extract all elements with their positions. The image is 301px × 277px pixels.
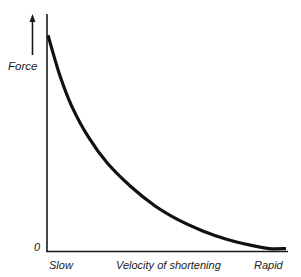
- x-axis-title: Velocity of shortening: [116, 259, 221, 271]
- y-zero-tick-label: 0: [34, 241, 40, 253]
- x-axis-right-label: Rapid: [254, 259, 283, 271]
- force-velocity-chart: [0, 0, 301, 277]
- y-axis-label: Force: [8, 60, 37, 72]
- x-axis-left-label: Slow: [49, 259, 73, 271]
- force-velocity-curve: [48, 35, 286, 249]
- up-arrow-icon: [30, 14, 36, 55]
